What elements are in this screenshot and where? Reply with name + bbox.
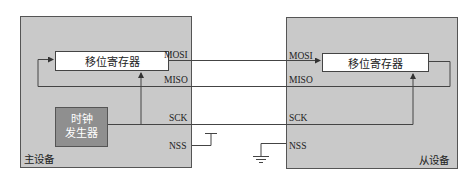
slave-nss-wire <box>261 144 286 157</box>
sck-wire <box>108 74 413 125</box>
miso-wire <box>38 60 450 87</box>
wiring <box>0 0 475 179</box>
master-nss-wire <box>192 134 211 146</box>
